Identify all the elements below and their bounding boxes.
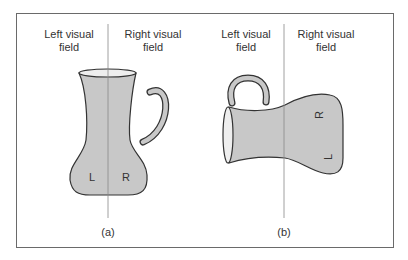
label-line: field <box>291 41 361 54</box>
label-line: field <box>118 41 188 54</box>
letter-l-b: L <box>322 154 334 160</box>
letter-r-b: R <box>313 111 325 119</box>
label-line: Right visual <box>291 28 361 41</box>
left-visual-field-label-a: Left visual field <box>38 28 100 54</box>
label-line: Left visual <box>215 28 277 41</box>
label-line: Right visual <box>118 28 188 41</box>
right-visual-field-label-a: Right visual field <box>118 28 188 54</box>
jug-upright <box>70 69 166 195</box>
letter-r-a: R <box>122 171 130 183</box>
label-line: Left visual <box>38 28 100 41</box>
letter-l-a: L <box>89 171 95 183</box>
label-line: field <box>38 41 100 54</box>
left-visual-field-label-b: Left visual field <box>215 28 277 54</box>
caption-b: (b) <box>269 226 299 239</box>
label-line: field <box>215 41 277 54</box>
right-visual-field-label-b: Right visual field <box>291 28 361 54</box>
caption-a: (a) <box>93 226 123 239</box>
